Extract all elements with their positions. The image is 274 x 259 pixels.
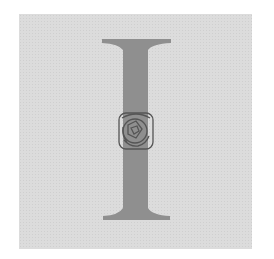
drop-cap-letter (0, 0, 274, 259)
